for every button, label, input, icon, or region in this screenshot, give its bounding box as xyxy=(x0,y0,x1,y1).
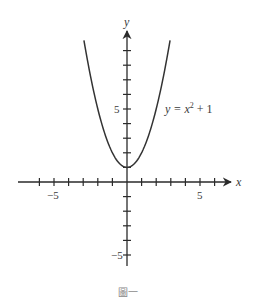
y-tick-label-5: 5 xyxy=(114,103,120,115)
x-tick-label-neg5: −5 xyxy=(47,189,59,201)
parabola-figure: x y −5 5 5 −5 y = x2 + 1 xyxy=(0,0,255,306)
y-tick-label-neg5: −5 xyxy=(111,249,123,261)
x-axis-label: x xyxy=(235,175,242,189)
x-tick-label-5: 5 xyxy=(197,189,203,201)
curve-label-suffix: + 1 xyxy=(194,102,213,116)
curve-equation-label: y = x2 + 1 xyxy=(164,101,213,116)
curve-label-prefix: y = x xyxy=(164,102,190,116)
figure-caption: 圖一 xyxy=(0,284,255,299)
y-axis-label: y xyxy=(123,15,130,29)
